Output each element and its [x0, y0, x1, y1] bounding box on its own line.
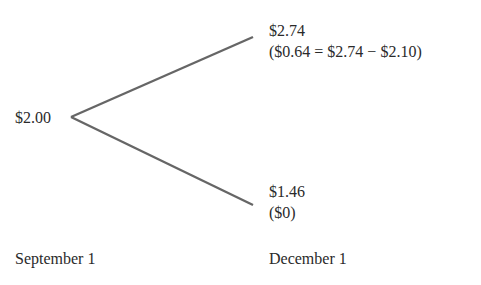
up-payoff: ($0.64 = $2.74 − $2.10)	[269, 42, 422, 62]
up-price: $2.74	[269, 21, 305, 41]
root-price: $2.00	[15, 108, 51, 128]
down-payoff: ($0)	[269, 203, 296, 223]
down-price: $1.46	[269, 182, 305, 202]
down-branch	[71, 117, 253, 205]
start-date-label: September 1	[15, 249, 95, 269]
end-date-label: December 1	[269, 249, 347, 269]
up-branch	[71, 37, 253, 117]
